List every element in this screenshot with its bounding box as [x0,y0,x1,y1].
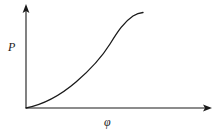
x-axis-label: φ [104,116,111,128]
figure-root: P φ [0,0,218,137]
y-axis-label: P [8,41,15,53]
